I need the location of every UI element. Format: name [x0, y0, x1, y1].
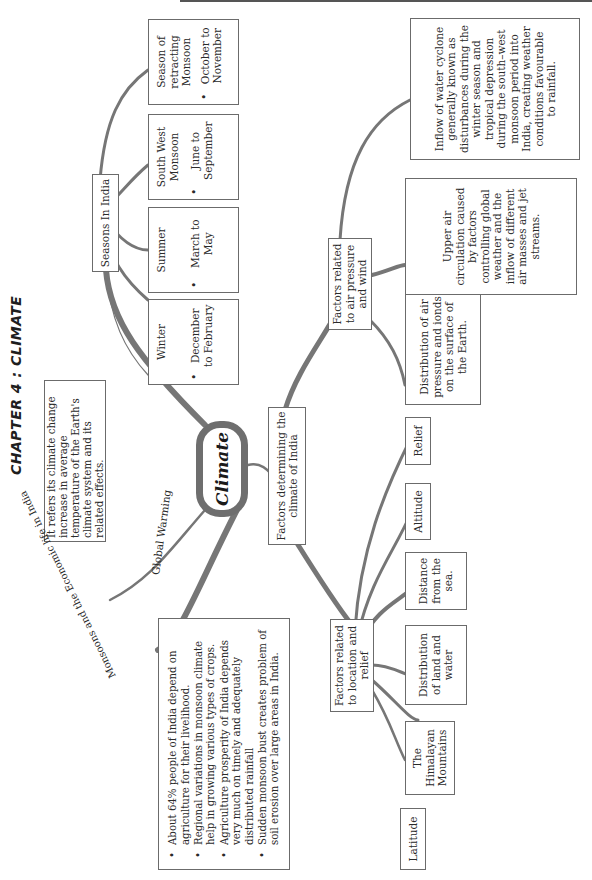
season-name: Summer [155, 227, 183, 272]
factors-determining-label: Factors determining the climate of India [275, 411, 300, 541]
season-winter: Winter •December to February [148, 299, 239, 385]
season-retracting-monsoon: Season of retracting Monsoon •October to… [148, 19, 239, 105]
mind-map-canvas: CHAPTER 4 : CLIMATE Global Warming It re… [0, 0, 592, 880]
global-warming-text: It refers its climate change increase in… [45, 384, 106, 538]
season-south-west-monsoon: South West Monsoon •June to September [148, 114, 239, 200]
season-summer: Summer •March to May [148, 207, 239, 293]
season-range: June to September [189, 119, 214, 183]
season-range: October to November [199, 24, 224, 88]
factor-text: Latitude [407, 817, 420, 862]
factor-relief: Relief [405, 417, 431, 465]
factor-distance-from-sea: Distance from the sea. [405, 552, 467, 610]
factor-altitude: Altitude [405, 483, 431, 540]
factor-text: Relief [412, 426, 425, 457]
season-name: South West Monsoon [155, 119, 183, 195]
season-name: Winter [155, 324, 183, 360]
list-item: About 64% people of India depend on agri… [167, 627, 192, 845]
monsoon-points-list: About 64% people of India depend on agri… [167, 627, 283, 859]
climate-label: Climate [212, 432, 232, 506]
location-relief-label: Factors related to location and relief [333, 623, 371, 708]
season-range: December to February [189, 304, 214, 368]
air-pressure-wind-label: Factors related to air pressure and wind [331, 242, 369, 326]
seasons-label: Seasons In India [99, 179, 112, 267]
air-pressure-wind-node: Factors related to air pressure and wind [328, 238, 372, 330]
factor-text: The Himalayan Mountains [411, 725, 449, 791]
factor-latitude: Latitude [400, 808, 426, 870]
factor-himalayan-mountains: The Himalayan Mountains [405, 721, 455, 795]
season-name: Season of retracting Monsoon [155, 24, 193, 100]
season-range: March to May [189, 212, 214, 276]
location-relief-node: Factors related to location and relief [330, 619, 374, 712]
bullet-icon: • [189, 189, 202, 196]
factor-distribution-land-water: Distribution of land and water [405, 625, 467, 705]
factor-text: Distribution of air pressure and ionds o… [418, 293, 468, 401]
chapter-title: CHAPTER 4 : CLIMATE [8, 300, 32, 475]
climate-central-node: Climate [196, 421, 248, 517]
factor-text: Altitude [412, 490, 425, 532]
bullet-icon: • [189, 374, 202, 381]
bullet-icon: • [189, 282, 202, 289]
factor-air-pressure-distribution: Distribution of air pressure and ionds o… [405, 289, 481, 405]
factor-text: Distribution of land and water [417, 629, 455, 701]
list-item: Regional variations in monsoon climate h… [193, 627, 218, 845]
bullet-icon: • [199, 94, 212, 101]
factor-text: Upper air circulation caused by factors … [441, 187, 541, 286]
global-warming-box: It refers its climate change increase in… [44, 380, 106, 542]
factor-text: Distance from the sea. [417, 556, 455, 606]
factor-upper-air-circulation: Upper air circulation caused by factors … [405, 178, 577, 295]
list-item: Agriculture prosperity of India depends … [219, 627, 256, 845]
monsoon-economy-box: About 64% people of India depend on agri… [158, 618, 290, 870]
list-item: Sudden monsoon bust creates problem of s… [257, 627, 282, 845]
factor-water-cyclone-inflow: Inflow of water cyclone generally known … [410, 18, 580, 160]
seasons-node: Seasons In India [92, 174, 119, 272]
page: CHAPTER 4 : CLIMATE Global Warming It re… [0, 0, 592, 880]
factor-text: Inflow of water cyclone generally known … [433, 25, 558, 153]
factors-determining-node: Factors determining the climate of India [268, 407, 306, 545]
